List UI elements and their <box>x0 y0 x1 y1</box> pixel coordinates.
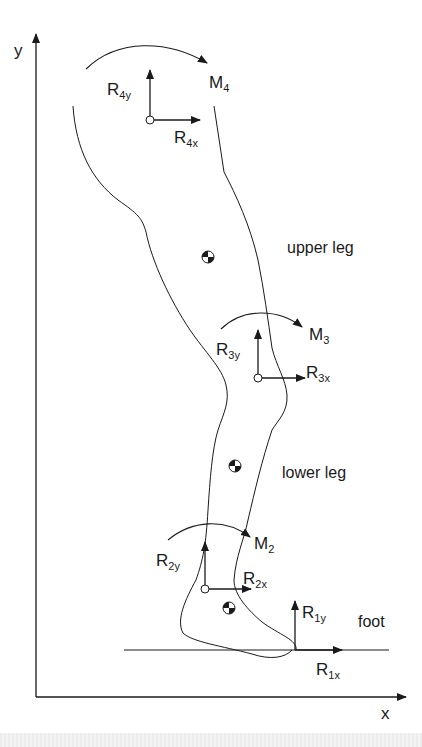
joint-3-center <box>254 374 262 382</box>
force-r3x-label: R3x <box>306 363 330 384</box>
joint-4-center <box>146 116 154 124</box>
force-r2y-label: R2y <box>156 551 180 572</box>
joint-2: M2 R2y R2x <box>156 524 274 593</box>
segment-label-foot: foot <box>358 613 385 630</box>
moment-m3-label: M3 <box>309 325 329 346</box>
moment-m2-label: M2 <box>254 534 274 555</box>
com-lower-leg <box>229 460 241 472</box>
force-r3y-label: R3y <box>216 340 240 361</box>
com-upper-leg <box>202 251 214 263</box>
center-of-mass-markers <box>202 251 241 614</box>
joint-4: M4 R4y R4x <box>86 46 229 149</box>
leg-silhouette <box>73 106 296 657</box>
moment-m2-arc <box>168 524 250 540</box>
segment-label-upper-leg: upper leg <box>287 239 354 256</box>
force-r2x-label: R2x <box>243 569 267 590</box>
leg-free-body-diagram: y x M4 R4y R4x <box>0 0 422 747</box>
com-foot <box>223 602 235 614</box>
bottom-band <box>0 733 422 747</box>
force-r4y-label: R4y <box>107 80 131 101</box>
joint-1: R1y R1x <box>295 601 342 681</box>
y-axis-label: y <box>14 41 23 60</box>
segment-label-lower-leg: lower leg <box>282 464 346 481</box>
force-r4x-label: R4x <box>174 128 198 149</box>
force-r1x-label: R1x <box>316 660 340 681</box>
coordinate-axes: y x <box>14 34 406 723</box>
joint-2-center <box>201 585 209 593</box>
x-axis-label: x <box>381 704 390 723</box>
moment-m4-arc <box>86 46 207 69</box>
moment-m4-label: M4 <box>209 73 229 94</box>
moment-m3-arc <box>221 313 302 329</box>
joint-3: M3 R3y R3x <box>216 313 330 384</box>
force-r1y-label: R1y <box>302 603 326 624</box>
